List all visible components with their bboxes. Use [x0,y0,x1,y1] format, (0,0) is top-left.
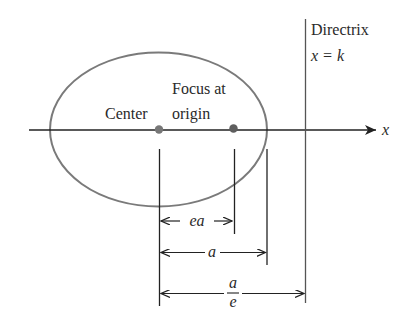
dim-a-over-e-denominator: e [229,293,236,310]
focus-label-line1: Focus at [172,80,226,97]
directrix-equation: x = k [310,47,345,64]
x-axis-label: x [381,121,389,138]
directrix-title: Directrix [311,21,369,38]
focus-label-line2: origin [172,105,210,123]
dim-ea-label: ea [189,212,204,229]
center-point [155,125,163,133]
dim-a-over-e-numerator: a [229,274,237,291]
dim-a-label: a [208,243,216,260]
focus-point [229,124,237,132]
center-label: Center [105,105,148,122]
ellipse-directrix-diagram: ea a a e Directrix x = k Focus at origin… [0,0,412,335]
